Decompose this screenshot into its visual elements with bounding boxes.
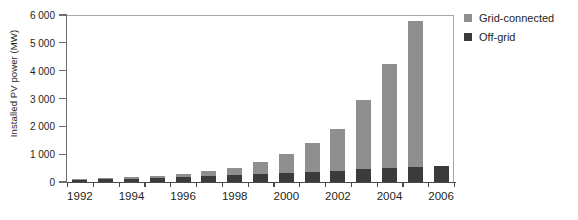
- chart-figure: Installed PV power (MW) 01 0002 0003 000…: [0, 0, 578, 220]
- bar-segment-grid-connected-1999: [253, 162, 268, 174]
- bar-segment-off-grid-2003: [356, 169, 371, 182]
- x-tick-2: [119, 182, 120, 187]
- x-tick-label-2006: 2006: [428, 190, 454, 202]
- bar-1998: [227, 168, 242, 182]
- bar-2002: [330, 129, 345, 182]
- bar-segment-grid-connected-1994: [124, 177, 139, 178]
- bar-2006: [434, 166, 449, 182]
- bar-segment-grid-connected-2002: [330, 129, 345, 170]
- x-tick-label-2000: 2000: [274, 190, 300, 202]
- x-tick-12: [377, 182, 378, 187]
- x-tick-6: [222, 182, 223, 187]
- x-tick-label-2002: 2002: [325, 190, 351, 202]
- bar-segment-off-grid-1996: [176, 177, 191, 182]
- x-axis-line: [62, 182, 456, 183]
- chart-legend: Grid-connected Off-grid: [464, 10, 554, 48]
- legend-item-off-grid: Off-grid: [464, 29, 554, 45]
- bar-segment-off-grid-2002: [330, 171, 345, 182]
- bar-segment-grid-connected-2005: [408, 21, 423, 167]
- x-tick-15: [454, 182, 455, 187]
- x-tick-13: [402, 182, 403, 187]
- bar-segment-grid-connected-1995: [150, 176, 165, 178]
- x-tick-label-1994: 1994: [119, 190, 145, 202]
- bar-segment-grid-connected-2003: [356, 100, 371, 170]
- bar-2005: [408, 21, 423, 182]
- bar-segment-off-grid-1994: [124, 179, 139, 182]
- x-tick-14: [428, 182, 429, 187]
- x-tick-8: [273, 182, 274, 187]
- bar-1993: [98, 178, 113, 182]
- x-tick-4: [170, 182, 171, 187]
- legend-label-off-grid: Off-grid: [479, 32, 515, 43]
- bar-segment-grid-connected-2004: [382, 64, 397, 168]
- bar-2001: [305, 143, 320, 182]
- bar-segment-off-grid-2001: [305, 172, 320, 182]
- x-tick-10: [325, 182, 326, 187]
- legend-label-grid-connected: Grid-connected: [479, 13, 554, 24]
- x-tick-label-1998: 1998: [222, 190, 248, 202]
- bar-1996: [176, 174, 191, 182]
- bar-2000: [279, 153, 294, 182]
- bar-segment-off-grid-1995: [150, 178, 165, 182]
- bar-segment-off-grid-2004: [382, 168, 397, 182]
- x-tick-5: [196, 182, 197, 187]
- bar-segment-off-grid-1997: [201, 176, 216, 182]
- bar-1992: [72, 179, 87, 182]
- bar-2003: [356, 100, 371, 182]
- x-tick-3: [144, 182, 145, 187]
- bar-2004: [382, 64, 397, 182]
- bar-segment-grid-connected-1996: [176, 174, 191, 177]
- bar-segment-off-grid-1998: [227, 175, 242, 182]
- x-tick-label-2004: 2004: [377, 190, 403, 202]
- bar-segment-off-grid-1992: [72, 180, 87, 182]
- x-tick-0: [67, 182, 68, 187]
- x-tick-11: [351, 182, 352, 187]
- bar-segment-off-grid-2000: [279, 173, 294, 182]
- legend-swatch-grid-connected: [464, 14, 472, 22]
- bar-1997: [201, 171, 216, 182]
- bar-segment-grid-connected-2001: [305, 143, 320, 172]
- bar-1995: [150, 176, 165, 182]
- bar-segment-off-grid-2006: [434, 166, 449, 182]
- bar-segment-off-grid-1999: [253, 174, 268, 182]
- bar-segment-grid-connected-1997: [201, 171, 216, 176]
- bar-1994: [124, 177, 139, 182]
- x-tick-label-1996: 1996: [170, 190, 196, 202]
- legend-item-grid-connected: Grid-connected: [464, 10, 554, 26]
- x-tick-7: [248, 182, 249, 187]
- legend-swatch-off-grid: [464, 33, 472, 41]
- bar-segment-off-grid-1993: [98, 179, 113, 182]
- x-tick-label-1992: 1992: [67, 190, 93, 202]
- bar-segment-grid-connected-2000: [279, 154, 294, 173]
- bar-segment-grid-connected-1993: [98, 178, 113, 179]
- bar-segment-grid-connected-1998: [227, 168, 242, 176]
- bar-segment-off-grid-2005: [408, 167, 423, 182]
- bar-1999: [253, 162, 268, 182]
- x-tick-1: [93, 182, 94, 187]
- x-tick-9: [299, 182, 300, 187]
